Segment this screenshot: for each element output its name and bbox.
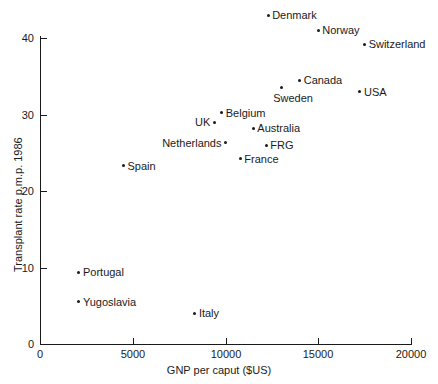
data-point [280, 86, 283, 89]
x-axis-line [40, 344, 412, 345]
data-point [267, 14, 270, 17]
x-tick-mark [40, 338, 41, 344]
y-tick-mark [41, 191, 47, 192]
data-point-label: Italy [199, 308, 219, 319]
x-axis-title: GNP per caput ($US) [0, 364, 438, 376]
x-tick-label: 10000 [196, 348, 256, 360]
data-point [363, 43, 366, 46]
x-tick-label: 5000 [103, 348, 163, 360]
data-point-label: France [244, 154, 278, 165]
y-tick-label: 30 [0, 109, 34, 121]
y-tick-mark [41, 268, 47, 269]
data-point-label: Australia [257, 123, 300, 134]
data-point-label: FRG [270, 140, 293, 151]
scatter-plot: 010203040 05000100001500020000 DenmarkNo… [0, 0, 438, 384]
data-point [252, 127, 255, 130]
data-point-label: Portugal [83, 267, 124, 278]
y-axis-title: Transplant rate p.m.p. 1986 [12, 137, 24, 272]
data-point-label: Yugoslavia [83, 297, 136, 308]
x-tick-label: 20000 [381, 348, 438, 360]
y-tick-mark [41, 38, 47, 39]
data-point-label: Norway [322, 25, 359, 36]
data-point [265, 144, 268, 147]
x-tick-mark [226, 338, 227, 344]
data-point [298, 79, 301, 82]
data-point [317, 29, 320, 32]
data-point-label: USA [364, 87, 387, 98]
data-point [358, 90, 361, 93]
data-point [122, 164, 125, 167]
data-point [239, 157, 242, 160]
x-tick-mark [411, 338, 412, 344]
x-tick-mark [318, 338, 319, 344]
x-tick-label: 15000 [288, 348, 348, 360]
data-point-label: Canada [304, 75, 343, 86]
y-tick-mark [41, 115, 47, 116]
data-point [220, 111, 223, 114]
y-tick-label: 40 [0, 32, 34, 44]
data-point-label: Switzerland [369, 39, 426, 50]
data-point [77, 271, 80, 274]
data-point-label: Netherlands [162, 138, 221, 149]
x-tick-mark [133, 338, 134, 344]
data-point-label: UK [195, 117, 210, 128]
y-tick-mark [41, 344, 47, 345]
data-point-label: Belgium [226, 108, 266, 119]
data-point [224, 141, 227, 144]
data-point [213, 121, 216, 124]
data-point [77, 300, 80, 303]
data-point [193, 312, 196, 315]
data-point-label: Denmark [272, 10, 317, 21]
data-point-label: Sweden [273, 93, 313, 104]
data-point-label: Spain [127, 161, 155, 172]
x-tick-label: 0 [10, 348, 70, 360]
